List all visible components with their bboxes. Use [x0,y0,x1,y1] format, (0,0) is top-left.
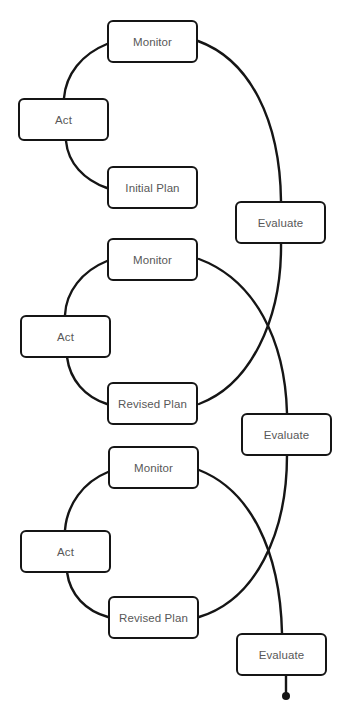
node-revised-plan-2: Revised Plan [108,596,199,639]
connector-evaluate2-to-plan3 [199,455,287,617]
node-label: Act [57,331,74,343]
connector-monitor3-to-evaluate3 [199,470,282,633]
node-revised-plan-1: Revised Plan [107,382,198,425]
node-label: Monitor [133,254,172,266]
node-label: Evaluate [259,649,305,661]
node-label: Monitor [133,36,172,48]
connector-act3-to-monitor3 [65,472,108,530]
node-act-1: Act [18,98,109,141]
connector-plan2-to-act2 [67,357,107,404]
connector-plan1-to-act1 [66,141,107,188]
node-label: Monitor [134,462,173,474]
connector-act2-to-monitor2 [65,261,107,315]
node-label: Evaluate [258,217,304,229]
node-label: Act [55,114,72,126]
connector-evaluate1-to-plan2 [199,243,281,404]
node-label: Revised Plan [118,398,187,410]
node-initial-plan: Initial Plan [107,166,198,209]
connector-monitor1-to-evaluate1 [198,41,281,201]
node-label: Revised Plan [119,612,188,624]
node-monitor-2: Monitor [107,238,198,281]
node-evaluate-1: Evaluate [235,201,326,244]
node-monitor-3: Monitor [108,446,199,489]
node-label: Initial Plan [125,182,179,194]
connector-monitor2-to-evaluate2 [199,259,287,413]
node-act-2: Act [20,315,111,358]
node-monitor-1: Monitor [107,20,198,63]
node-label: Act [57,546,74,558]
connector-act1-to-monitor1 [64,44,107,98]
node-label: Evaluate [264,429,310,441]
end-point-icon [282,692,290,700]
connector-plan3-to-act3 [67,572,108,617]
node-act-3: Act [20,530,111,573]
node-evaluate-2: Evaluate [241,413,332,456]
node-evaluate-3: Evaluate [236,633,327,676]
